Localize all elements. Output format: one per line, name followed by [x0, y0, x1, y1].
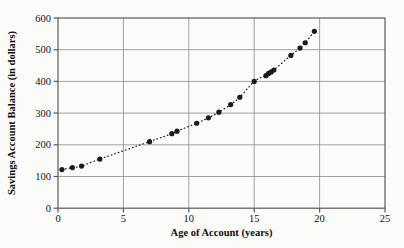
data-point — [312, 29, 317, 34]
y-tick-label-200: 200 — [35, 139, 51, 150]
data-point — [147, 139, 152, 144]
x-tick-label-15: 15 — [249, 213, 260, 224]
scatter-plot-figure: 0100200300400500600 0510152025 Age of Ac… — [0, 0, 404, 248]
x-tick-label-25: 25 — [380, 213, 391, 224]
x-tick-label-5: 5 — [121, 213, 126, 224]
x-axis-title: Age of Account (years) — [171, 227, 273, 239]
y-tick-label-500: 500 — [35, 44, 51, 55]
y-tick-label-0: 0 — [46, 203, 51, 214]
data-point — [216, 110, 221, 115]
data-point — [297, 46, 302, 51]
x-tick-label-10: 10 — [184, 213, 195, 224]
data-point — [169, 131, 174, 136]
data-point — [288, 53, 293, 58]
y-tick-label-400: 400 — [35, 76, 51, 87]
data-point — [194, 121, 199, 126]
data-point — [228, 102, 233, 107]
y-tick-label-600: 600 — [35, 13, 51, 24]
data-point — [79, 163, 84, 168]
x-tick-label-20: 20 — [314, 213, 325, 224]
data-point — [271, 67, 276, 72]
chart-canvas: 0100200300400500600 0510152025 Age of Ac… — [0, 0, 404, 248]
figure-background — [0, 0, 404, 248]
y-tick-label-300: 300 — [35, 108, 51, 119]
y-tick-label-100: 100 — [35, 171, 51, 182]
data-point — [206, 115, 211, 120]
data-point — [303, 40, 308, 45]
data-point — [237, 95, 242, 100]
data-point — [59, 167, 64, 172]
x-tick-label-0: 0 — [55, 213, 60, 224]
y-axis-title: Savings Account Balance (in dollars) — [6, 31, 18, 195]
data-point — [97, 156, 102, 161]
data-point — [252, 79, 257, 84]
data-point — [70, 165, 75, 170]
data-point — [174, 129, 179, 134]
